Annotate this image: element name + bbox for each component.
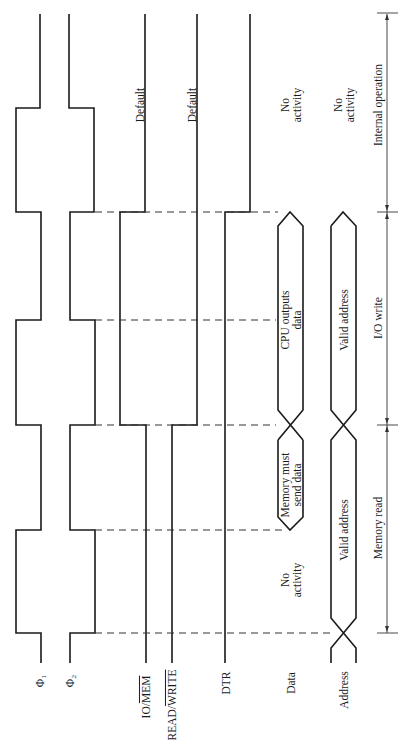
text-line: No — [332, 88, 344, 123]
arrow-down-icon — [385, 205, 389, 211]
valid-address-io-write: Valid address — [338, 289, 350, 351]
label-read-write: READ/WRITE — [166, 670, 178, 740]
data-no-activity-bottom: No activity — [279, 563, 303, 598]
read-write-prefix: READ/ — [166, 706, 178, 740]
cpu-outputs-data-text: CPU outputs data — [279, 290, 303, 349]
io-mem-prefix: IO/ — [140, 703, 152, 718]
io-mem-overline: MEM — [140, 676, 152, 703]
phi2-waveform — [69, 14, 95, 663]
text-line: No — [279, 88, 291, 123]
arrow-up-icon — [385, 213, 389, 219]
address-bus — [331, 212, 356, 663]
address-no-activity: No activity — [332, 88, 356, 123]
text-line: activity — [344, 88, 356, 123]
text-line: CPU outputs — [279, 290, 291, 349]
label-data: Data — [285, 672, 297, 694]
phase-internal-operation: Internal operation — [372, 64, 384, 146]
text-line: activity — [291, 88, 303, 123]
arrow-up-icon — [385, 14, 389, 20]
text-line: activity — [291, 563, 303, 598]
text-line: send data — [291, 453, 303, 518]
arrow-down-icon — [385, 626, 389, 632]
label-dtr: DTR — [220, 672, 232, 695]
label-phi2: Φ₂ — [64, 675, 76, 687]
label-phi1: Φ₁ — [34, 675, 46, 687]
memory-must-send-data-text: Memory must send data — [279, 453, 303, 518]
label-address: Address — [338, 671, 350, 709]
dtr-waveform — [225, 14, 250, 663]
phase-memory-read: Memory read — [372, 497, 384, 559]
read-write-overline: WRITE — [166, 670, 178, 706]
data-no-activity-top: No activity — [279, 88, 303, 123]
io-mem-default-text: Default — [134, 88, 146, 122]
text-line: data — [291, 290, 303, 349]
arrow-up-icon — [385, 426, 389, 432]
valid-address-memory-read: Valid address — [338, 499, 350, 561]
arrow-down-icon — [385, 418, 389, 424]
phi1-waveform — [16, 14, 41, 663]
label-io-mem: IO/MEM — [140, 676, 152, 719]
text-line: Memory must — [279, 453, 291, 518]
phase-io-write: I/O write — [372, 297, 384, 339]
read-write-default-text: Default — [186, 88, 198, 122]
text-line: No — [279, 563, 291, 598]
